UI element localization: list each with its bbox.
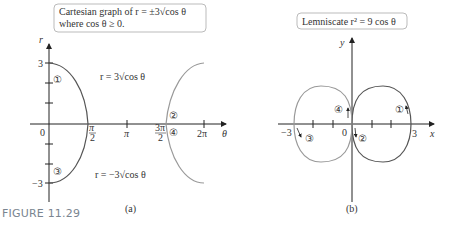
panel-a: Cartesian graph of r = ±3√cos θ where co… [30, 4, 227, 215]
r-axis-label: r [39, 34, 43, 45]
r-tick-neg3: −3 [32, 178, 43, 189]
sublabel-b: (b) [346, 203, 358, 215]
sublabel-a: (a) [125, 203, 136, 215]
panel-b: Lemniscate r² = 9 cos θ y x −3 0 3 ① ② ③… [278, 13, 435, 215]
x-tick-neg3: −3 [281, 127, 292, 138]
marker-1-b: ① [395, 104, 404, 115]
marker-2-a: ② [169, 110, 178, 121]
marker-1-a: ① [53, 74, 62, 85]
r-tick-3: 3 [38, 58, 43, 69]
theta-axis-label: θ [222, 128, 227, 139]
marker-3-a: ③ [53, 166, 62, 177]
figure-label: FIGURE 11.29 [2, 207, 80, 220]
curve-right [166, 63, 204, 183]
y-axis-label: y [339, 37, 345, 48]
label-r-neg: r = −3√cos θ [95, 169, 146, 180]
x-axis-label: x [429, 128, 435, 139]
svg-text:2: 2 [158, 132, 163, 143]
marker-4-a: ④ [169, 127, 178, 138]
marker-3-b: ③ [305, 133, 314, 144]
theta-tick-0: 0 [40, 127, 45, 138]
figure-canvas: Cartesian graph of r = ±3√cos θ where co… [0, 0, 449, 229]
marker-2-b: ② [358, 133, 367, 144]
caption-a-line2: where cos θ ≥ 0. [59, 18, 125, 29]
theta-tick-pi: π [124, 128, 130, 139]
marker-4-b: ④ [334, 104, 343, 115]
caption-a-line1: Cartesian graph of r = ±3√cos θ [59, 6, 186, 17]
svg-text:2: 2 [90, 132, 95, 143]
theta-tick-2pi: 2π [197, 128, 207, 139]
x-tick-3: 3 [412, 128, 417, 139]
label-r-pos: r = 3√cos θ [100, 71, 145, 82]
caption-b: Lemniscate r² = 9 cos θ [302, 16, 396, 27]
x-tick-0: 0 [342, 127, 347, 138]
